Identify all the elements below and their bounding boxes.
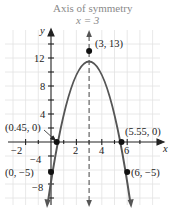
chart-title: Axis of symmetry xyxy=(53,2,133,14)
tick-y-4: 4 xyxy=(40,109,46,120)
curve-arrow-right xyxy=(128,199,134,208)
curve-arrow-left xyxy=(45,199,51,208)
point-symmetric xyxy=(124,169,130,175)
grid xyxy=(5,30,160,205)
parabola-chart: Axis of symmetry x = 3 y x (3, 13) (0.45… xyxy=(0,0,175,211)
axes xyxy=(8,29,164,205)
tick-x-2: 2 xyxy=(73,145,78,156)
label-root-left: (0.45, 0) xyxy=(5,122,41,134)
tick-y-8: 8 xyxy=(40,81,45,92)
x-axis-label: x xyxy=(162,143,168,154)
label-y-intercept: (0, −5) xyxy=(5,167,34,179)
tick-y-neg4: −4 xyxy=(30,154,42,165)
tick-y-neg8: −8 xyxy=(32,182,43,193)
y-axis-label: y xyxy=(39,25,45,36)
tick-x-neg2: −2 xyxy=(11,145,22,156)
leader-arrow xyxy=(44,130,56,141)
tick-y-12: 12 xyxy=(34,53,45,64)
label-root-right: (5.55, 0) xyxy=(125,126,161,138)
chart-subtitle: x = 3 xyxy=(75,14,100,26)
point-vertex xyxy=(86,48,92,54)
point-y-intercept xyxy=(48,169,54,175)
label-vertex: (3, 13) xyxy=(95,38,123,50)
axis-of-symmetry xyxy=(86,30,92,207)
tick-x-6: 6 xyxy=(124,145,129,156)
tick-x-4: 4 xyxy=(99,145,105,156)
label-symmetric-point: (6, −5) xyxy=(131,167,160,179)
